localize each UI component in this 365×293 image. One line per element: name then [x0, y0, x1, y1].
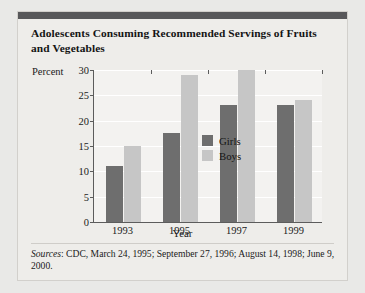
legend: Girls Boys	[202, 134, 241, 164]
plot-area: 1993199519971999 Girls Boys	[93, 70, 322, 223]
source-divider	[31, 243, 334, 244]
legend-swatch-boys	[202, 150, 213, 161]
y-tick-label: 10	[67, 166, 89, 177]
bar-boys-1995	[181, 75, 198, 222]
source-text: : CDC, March 24, 1995; September 27, 199…	[31, 248, 334, 271]
bar-girls-1993	[106, 166, 123, 222]
y-tick-label: 15	[67, 141, 89, 152]
y-axis-tick-labels: 051015202530	[65, 70, 89, 222]
legend-swatch-girls	[202, 135, 213, 146]
source-label: Sources	[31, 248, 61, 259]
legend-item-girls: Girls	[202, 134, 241, 147]
chart-figure: Adolescents Consuming Recommended Servin…	[18, 12, 347, 280]
x-axis-title: Year	[18, 227, 347, 239]
legend-label-girls: Girls	[219, 135, 241, 147]
bar-group	[277, 70, 312, 222]
x-tick-mark	[208, 70, 209, 74]
figure-header-bar	[18, 12, 347, 19]
bar-girls-1999	[277, 105, 294, 222]
y-tick-label: 20	[67, 115, 89, 126]
y-axis-title: Percent	[32, 66, 64, 77]
bar-boys-1999	[295, 100, 312, 222]
bar-group	[163, 70, 198, 222]
bar-group	[106, 70, 141, 222]
y-tick-label: 0	[67, 217, 89, 228]
x-tick-mark	[322, 70, 323, 74]
legend-item-boys: Boys	[202, 149, 241, 162]
y-tick-label: 30	[67, 65, 89, 76]
bar-girls-1995	[163, 133, 180, 222]
x-tick-mark	[151, 70, 152, 74]
bar-boys-1993	[124, 146, 141, 222]
y-tick-label: 5	[67, 191, 89, 202]
y-tick-label: 25	[67, 90, 89, 101]
source-note: Sources: CDC, March 24, 1995; September …	[31, 248, 336, 271]
x-tick-mark	[265, 70, 266, 74]
chart-title: Adolescents Consuming Recommended Servin…	[31, 26, 331, 55]
legend-label-boys: Boys	[219, 150, 241, 162]
